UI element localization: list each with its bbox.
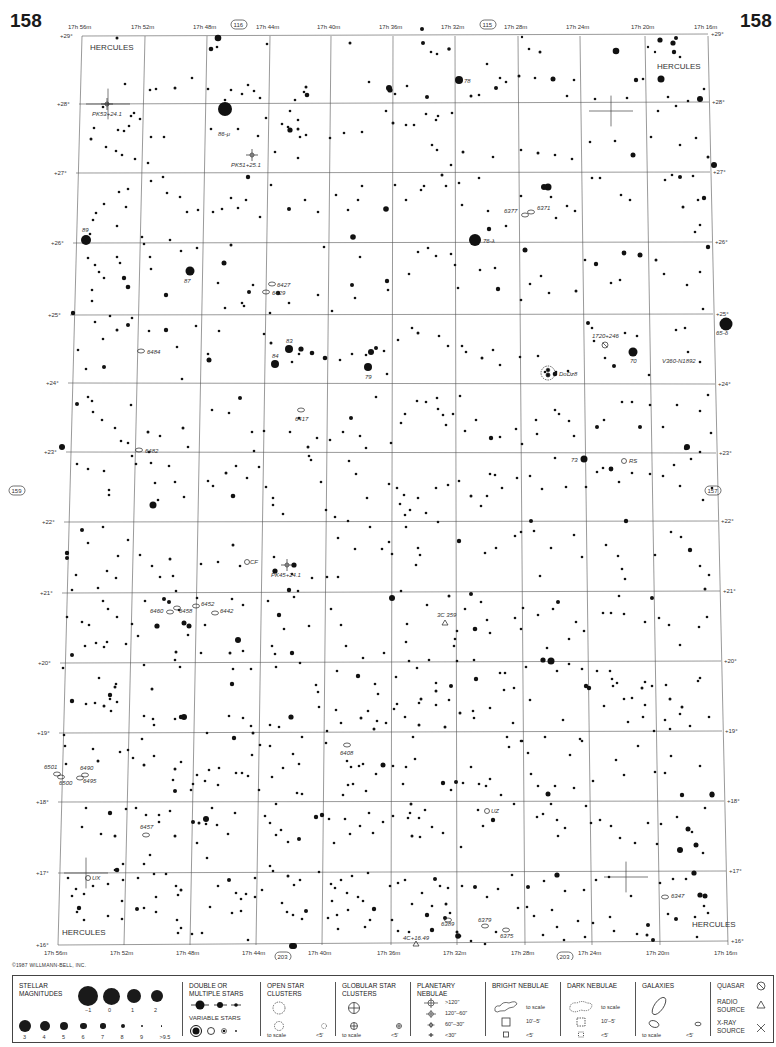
star [230,89,233,92]
star [116,225,119,228]
ra-label-top: 17h 24m [566,24,589,30]
ra-label-top: 17h 56m [68,24,91,30]
star [706,616,709,619]
star [428,659,431,662]
star [301,736,304,739]
star [217,561,220,564]
star [627,721,630,724]
star [361,185,364,188]
star [298,353,301,356]
star [107,915,110,918]
star [201,932,204,935]
star [489,707,492,710]
star [333,842,336,845]
star [89,233,92,236]
ra-label-top: 17h 36m [379,24,402,30]
star [596,670,599,673]
star [503,689,506,692]
star [153,724,156,727]
star [513,687,516,690]
star [91,400,94,403]
star [125,643,128,646]
star [630,895,633,898]
star [539,575,542,578]
star [180,761,183,764]
star [137,635,140,638]
star [546,792,551,797]
star [187,634,190,637]
star [130,115,133,118]
star [484,552,487,555]
object-label: 3C 359 [437,612,457,618]
star [230,682,234,686]
star [687,351,690,354]
object-label: PK51+25.1 [231,162,261,168]
star [190,789,193,792]
star [568,420,571,423]
star [357,199,360,202]
size-label: to scale [526,1004,545,1010]
star [274,653,277,656]
legend-open-clusters: OPEN STAR CLUSTERS to scale <5' [261,982,336,1036]
star [315,684,318,687]
star [273,556,276,559]
star [520,628,523,631]
star [397,339,400,342]
star [174,835,177,838]
star [703,905,706,908]
star [126,285,131,290]
star [374,346,378,350]
legend-title: BRIGHT NEBULAE [492,982,552,990]
star-label: 83 [286,338,293,344]
star [528,48,531,51]
star [623,774,626,777]
star [149,89,152,92]
star [674,36,678,40]
star [251,754,254,757]
star [403,494,406,497]
star [575,621,578,624]
star [169,810,172,813]
star [707,394,710,397]
star [594,98,597,101]
star [207,358,212,363]
magnitude-label: 6 [82,1034,85,1040]
star [299,662,302,665]
star [543,880,546,883]
star [566,95,569,98]
star [175,885,178,888]
star [650,596,654,600]
named-star [218,102,232,116]
star [71,589,74,592]
star [114,835,117,838]
star [703,894,708,899]
star [108,489,111,492]
star [342,794,345,797]
star [92,219,95,222]
named-star [720,318,733,331]
star [354,297,357,300]
star [615,759,618,762]
star [400,590,403,593]
star-label: 86-μ [218,131,231,137]
star [314,815,318,819]
star [406,85,409,88]
star [473,885,477,889]
star [286,911,289,914]
star [667,96,670,99]
star [435,690,438,693]
star [94,321,97,324]
star [131,317,134,320]
magnitude-label: >9.5 [160,1034,171,1040]
star [654,554,657,557]
star [336,914,339,917]
star [413,124,416,127]
star [221,208,224,211]
star [351,875,354,878]
star [151,565,154,568]
star [525,666,528,669]
star [137,877,140,880]
star [523,248,528,253]
star [252,732,255,735]
star [399,503,402,506]
